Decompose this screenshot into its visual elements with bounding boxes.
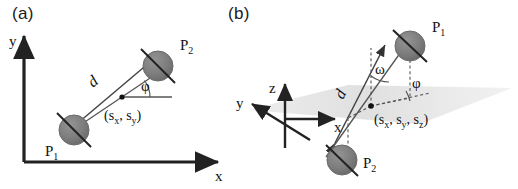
coord-close: ) <box>423 112 428 128</box>
P2-label: P2 <box>363 155 376 174</box>
P2-label: P2 <box>180 37 193 56</box>
phi-angle-label: φ <box>412 75 421 91</box>
omega-angle-label: ω <box>375 61 385 77</box>
panel-b-diagram: z x y d ω φ <box>230 0 518 189</box>
panel-b-point-P2: P2 <box>326 145 376 176</box>
z-axis-label: z <box>269 80 276 96</box>
center-point-marker <box>368 103 374 109</box>
svg-text:(sx, sy): (sx, sy) <box>104 108 142 126</box>
distance-label: d <box>84 71 102 90</box>
panel-a-point-P1: P1 <box>45 113 91 162</box>
center-point-marker <box>119 94 124 99</box>
P1-label: P1 <box>432 19 445 38</box>
panel-a-point-P2: P2 <box>141 37 193 83</box>
phi-angle-label: φ <box>141 78 150 94</box>
P1-label: P1 <box>45 143 58 162</box>
panel-a-diagram: y x d φ (sx, sy) P1 <box>0 0 259 189</box>
figure-root: (a) y x d <box>0 0 518 189</box>
coord-sep1: , <box>119 108 126 123</box>
panel-b-point-P1: P1 <box>393 19 445 62</box>
panel-a-center-coordinate: (sx, sy) <box>104 108 142 126</box>
coord-sep2: , <box>407 112 414 127</box>
coord-close: ) <box>137 108 142 124</box>
y-axis-label: y <box>236 95 244 111</box>
coord-sep1: , <box>389 112 396 127</box>
y-axis-label: y <box>9 33 17 49</box>
x-axis-label: x <box>215 168 223 184</box>
